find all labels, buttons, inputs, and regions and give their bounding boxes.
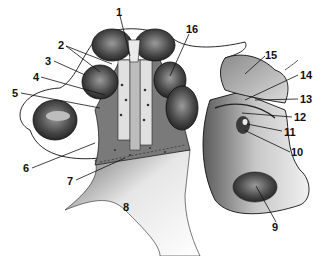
label-12: 12 bbox=[294, 112, 306, 123]
label-10: 10 bbox=[291, 147, 303, 158]
lower-trunk bbox=[65, 150, 200, 256]
label-7: 7 bbox=[67, 176, 73, 187]
label-5: 5 bbox=[12, 88, 18, 99]
label-3: 3 bbox=[45, 56, 51, 67]
label-15: 15 bbox=[265, 50, 277, 61]
anatomical-figure: 1 2 3 4 5 6 7 8 9 10 11 12 13 14 15 16 bbox=[0, 0, 325, 256]
illustration-drawing bbox=[0, 0, 325, 256]
label-16: 16 bbox=[186, 24, 198, 35]
label-9: 9 bbox=[272, 222, 278, 233]
label-4: 4 bbox=[33, 72, 39, 83]
label-6: 6 bbox=[23, 163, 29, 174]
label-8: 8 bbox=[123, 202, 129, 213]
label-1: 1 bbox=[116, 7, 122, 18]
label-2: 2 bbox=[58, 40, 64, 51]
label-13: 13 bbox=[300, 94, 312, 105]
label-14: 14 bbox=[300, 70, 312, 81]
label-11: 11 bbox=[284, 127, 296, 138]
